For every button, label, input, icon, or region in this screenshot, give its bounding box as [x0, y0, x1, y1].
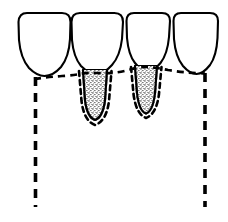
tooth-4-crown — [174, 13, 219, 74]
tooth-2-crown — [72, 13, 124, 74]
tooth-3-crown — [127, 13, 171, 71]
outline-box-dashed — [36, 73, 206, 207]
dental-diagram-svg — [0, 0, 228, 222]
crowns-group — [19, 13, 219, 76]
roots-group — [79, 64, 162, 126]
tooth-1-crown — [19, 13, 71, 76]
figure-root: Dental cross-section diagram — [0, 0, 228, 222]
